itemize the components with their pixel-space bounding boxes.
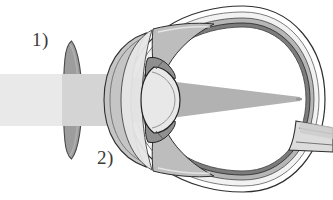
eye-diagram [0,0,333,200]
callout-label-1: 1) [32,30,49,49]
callout-label-2: 2) [97,148,114,167]
focal-point [296,97,302,100]
eye-optics-figure: 1) 2) [0,0,333,200]
optic-nerve [289,121,333,152]
